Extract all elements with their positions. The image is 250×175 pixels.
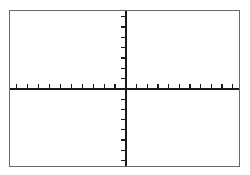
y-axis-tick-group <box>121 17 126 161</box>
x-axis <box>10 84 239 89</box>
x-axis-tick-group <box>17 84 233 89</box>
y-axis <box>121 11 126 166</box>
figure-root <box>0 0 250 175</box>
coordinate-plane-svg <box>10 11 239 166</box>
axes-layer <box>10 11 239 166</box>
plot-frame-border <box>9 10 240 167</box>
plot-background <box>10 11 239 166</box>
